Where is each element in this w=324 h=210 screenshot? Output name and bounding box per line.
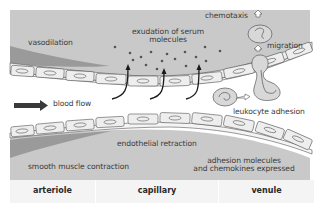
footer-arteriole: arteriole — [10, 180, 95, 203]
blood-flow-arrow — [14, 100, 48, 111]
footer-venule: venule — [219, 180, 314, 203]
label-smooth-muscle-contraction: smooth muscle contraction — [28, 163, 129, 171]
footer-label-arteriole: arteriole — [10, 186, 95, 195]
label-blood-flow: blood flow — [53, 100, 91, 108]
label-exudation-line2: molecules — [118, 36, 218, 44]
footer-label-venule: venule — [219, 186, 314, 195]
label-chemotaxis: chemotaxis — [205, 12, 248, 20]
label-migration: migration — [267, 42, 303, 50]
footer-label-capillary: capillary — [96, 186, 218, 195]
label-adhesion-line2: and chemokines expressed — [184, 165, 304, 173]
label-adhesion-molecules: adhesion molecules and chemokines expres… — [184, 157, 304, 174]
footer-capillary: capillary — [96, 180, 218, 203]
leukocyte-rolling — [213, 88, 237, 106]
label-endothelial-retraction: endothelial retraction — [117, 140, 197, 148]
label-vasodilation: vasodilation — [28, 39, 73, 47]
label-exudation: exudation of serum molecules — [118, 28, 218, 45]
label-leukocyte-adhesion: leukocyte adhesion — [233, 108, 305, 116]
